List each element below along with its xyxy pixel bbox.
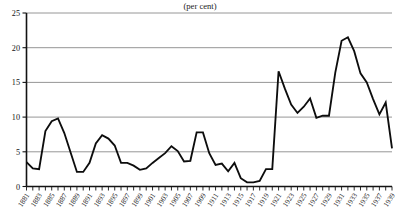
x-tick-label: 1927 [306, 191, 322, 209]
x-tick-label: 1901 [142, 191, 158, 209]
x-tick-label: 1891 [79, 191, 95, 209]
y-tick-label: 20 [12, 44, 20, 53]
x-tick-label: 1903 [155, 191, 171, 209]
x-tick-label: 1921 [268, 191, 284, 209]
x-tick-label: 1907 [180, 191, 196, 209]
gridlines [27, 13, 393, 187]
y-tick-label: 15 [12, 78, 20, 87]
chart-subtitle: (per cent) [183, 1, 216, 11]
y-axis-labels: 0510152025 [12, 9, 20, 192]
x-tick-label: 1917 [243, 191, 259, 209]
unemployment-rate-line [27, 37, 393, 182]
x-tick-label: 1905 [167, 191, 183, 209]
x-tick-label: 1889 [66, 191, 82, 209]
chart-subtitle-group: (per cent) [183, 1, 216, 11]
x-tick-label: 1883 [29, 191, 45, 209]
x-tick-label: 1915 [230, 191, 246, 209]
x-tick-label: 1931 [331, 191, 347, 209]
x-tick-label: 1925 [293, 191, 309, 209]
y-tick-label: 10 [12, 113, 20, 122]
x-tick-label: 1935 [356, 191, 372, 209]
x-tick-label: 1911 [205, 191, 220, 208]
x-tick-label: 1885 [41, 191, 57, 209]
x-tick-label: 1929 [318, 191, 334, 209]
line-chart: (per cent) 0510152025 188118831885188718… [0, 0, 400, 223]
chart-container: (per cent) 0510152025 188118831885188718… [0, 0, 400, 223]
x-tick-label: 1887 [54, 191, 70, 209]
y-tick-label: 0 [16, 183, 20, 192]
x-tick-label: 1913 [218, 191, 234, 209]
x-tick-label: 1909 [192, 191, 208, 209]
x-tick-label: 1897 [117, 191, 133, 209]
y-tick-label: 25 [12, 9, 20, 18]
x-tick-label: 1895 [104, 191, 120, 209]
x-tick-label: 1919 [255, 191, 271, 209]
x-tick-label: 1923 [281, 191, 297, 209]
x-tick-label: 1933 [344, 191, 360, 209]
x-axis-labels: 1881188318851887188918911893189518971899… [16, 191, 397, 209]
x-tick-label: 1939 [381, 191, 397, 209]
x-tick-label: 1893 [92, 191, 108, 209]
x-tick-label: 1937 [369, 191, 385, 209]
y-tick-label: 5 [16, 148, 20, 157]
x-tick-label: 1899 [129, 191, 145, 209]
x-tick-label: 1881 [16, 191, 32, 209]
